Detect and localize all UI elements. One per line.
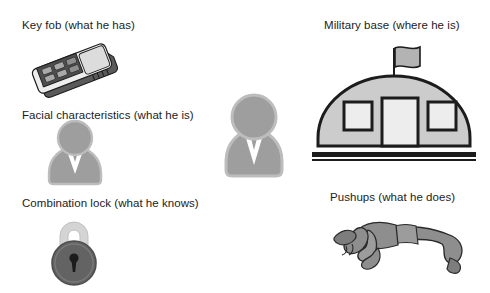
person-silhouette-icon-subject <box>222 92 286 182</box>
padlock-icon <box>46 214 102 288</box>
label-military-base: Military base (where he is) <box>324 18 460 32</box>
diagram-canvas: Key fob (what he has) <box>0 0 490 293</box>
pushup-person-icon <box>322 212 468 284</box>
label-key-fob: Key fob (what he has) <box>22 18 135 32</box>
person-silhouette-icon-facial <box>44 118 106 186</box>
label-combination-lock: Combination lock (what he knows) <box>22 196 199 210</box>
military-base-icon <box>310 40 478 168</box>
key-fob-icon <box>24 42 124 100</box>
label-pushups: Pushups (what he does) <box>330 190 455 204</box>
